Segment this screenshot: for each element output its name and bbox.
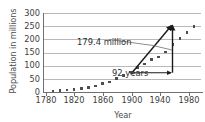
y-tick-label: 150 (14, 48, 40, 56)
x-axis-title: Year (43, 110, 203, 120)
y-tick-label: 50 (14, 75, 40, 83)
annotation-arrows (43, 13, 203, 95)
y-tick-label: 200 (14, 35, 40, 43)
annotation-amount-label: 179.4 million (77, 37, 132, 47)
annotation-years-label: 92 years (112, 68, 148, 78)
y-tick-label: 100 (14, 61, 40, 69)
plot-area (43, 13, 201, 92)
y-tick-label: 250 (14, 22, 40, 30)
y-tick-label: 300 (14, 9, 40, 17)
x-tick-label: 1980 (172, 95, 205, 105)
arrow-trend (132, 26, 172, 73)
population-chart-figure: Population in millions 300 250 200 150 1… (0, 0, 205, 122)
x-axis-tick-labels: 1780 1820 1860 1900 1940 1980 (0, 95, 205, 109)
